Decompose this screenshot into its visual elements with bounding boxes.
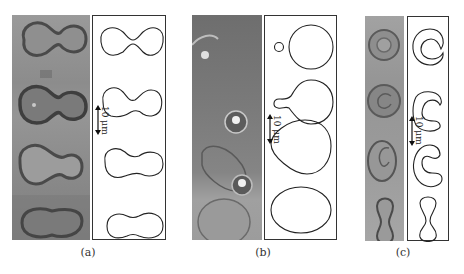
panel-b-micrograph-cells bbox=[192, 15, 262, 240]
panel-a-label: (a) bbox=[80, 246, 95, 259]
contour-a3 bbox=[105, 149, 163, 178]
contour-b4 bbox=[271, 187, 331, 233]
contour-a1 bbox=[101, 28, 163, 55]
panel-c-micrograph bbox=[365, 16, 404, 241]
panel-a-micrograph bbox=[12, 15, 90, 240]
panel-a-micrograph-cells bbox=[12, 15, 90, 240]
panel-c-scale-label: 10 μm bbox=[414, 116, 424, 145]
contour-a2 bbox=[103, 88, 162, 117]
panel-b-micrograph bbox=[192, 15, 262, 240]
panel-b-scale-label: 10 μm bbox=[272, 115, 282, 144]
contour-c4 bbox=[420, 197, 437, 242]
contour-a4 bbox=[107, 213, 163, 238]
contour-c3 bbox=[413, 145, 442, 187]
contour-c1 bbox=[413, 29, 443, 65]
contour-b2 bbox=[274, 80, 333, 124]
panel-c-micrograph-cells bbox=[365, 16, 404, 241]
panel-b-label: (b) bbox=[255, 246, 271, 259]
panel-a-scale-label: 10 μm bbox=[100, 106, 110, 135]
panel-c-label: (c) bbox=[396, 246, 411, 259]
contour-b1 bbox=[275, 25, 334, 69]
